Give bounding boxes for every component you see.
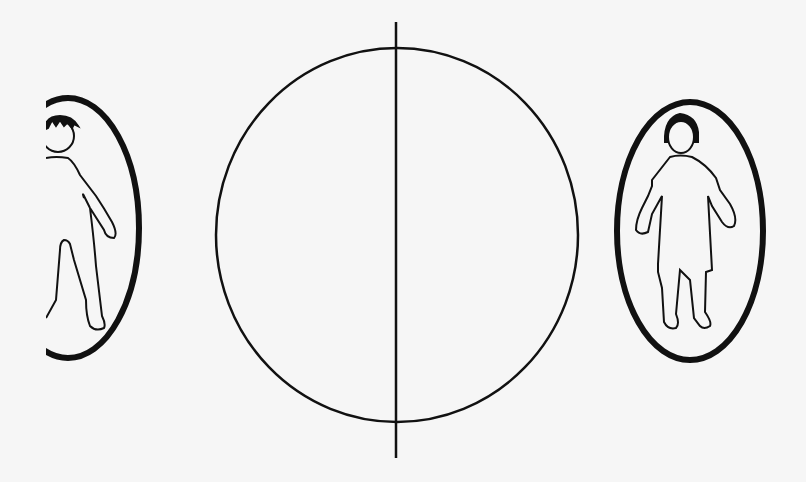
left-figure (0, 98, 139, 358)
center-circle-group (216, 22, 578, 458)
right-figure (617, 102, 763, 360)
female-figure-icon (636, 114, 735, 328)
diagram-canvas (0, 0, 806, 482)
male-figure-icon (42, 116, 116, 330)
